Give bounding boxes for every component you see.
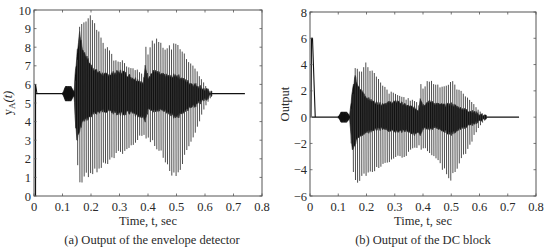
y-tick-label: 4 xyxy=(301,58,308,72)
y-tick-label: 9 xyxy=(25,22,31,36)
x-tick-label: 0.6 xyxy=(472,200,488,214)
y-tick-label: 0 xyxy=(25,190,31,204)
y-tick-label: 4 xyxy=(25,115,32,129)
x-tick-label: 0.8 xyxy=(528,200,544,214)
x-tick-label: 0.4 xyxy=(140,200,156,214)
y-tick-label: −2 xyxy=(294,137,307,151)
y-axis-label: Output xyxy=(278,86,292,121)
y-axis-label: yA(t) xyxy=(1,91,17,116)
figure: 00.10.20.30.40.50.60.70.8012345678910Tim… xyxy=(0,0,550,252)
x-tick-label: 0.7 xyxy=(226,200,242,214)
y-tick-label: 8 xyxy=(25,41,31,55)
x-tick-label: 0.4 xyxy=(415,200,431,214)
x-axis-label: Time, t, sec xyxy=(119,214,177,228)
y-tick-label: 6 xyxy=(25,78,31,92)
x-tick-label: 0.5 xyxy=(443,200,459,214)
x-tick-label: 0.8 xyxy=(254,200,270,214)
chart-envelope-detector: 00.10.20.30.40.50.60.70.8012345678910Tim… xyxy=(1,4,270,248)
x-tick-label: 0.1 xyxy=(55,200,71,214)
x-tick-label: 0.6 xyxy=(197,200,213,214)
y-tick-label: 10 xyxy=(19,4,32,18)
y-tick-label: 6 xyxy=(301,32,307,46)
x-axis-label: Time, t, sec xyxy=(394,214,452,228)
x-tick-label: 0.3 xyxy=(112,200,128,214)
caption-a: (a) Output of the envelope detector xyxy=(64,233,240,247)
y-tick-label: 3 xyxy=(25,134,31,148)
x-tick-label: 0.3 xyxy=(387,200,403,214)
x-tick-label: 0.5 xyxy=(169,200,185,214)
x-tick-label: 0.2 xyxy=(359,200,375,214)
y-tick-label: 2 xyxy=(301,84,307,98)
x-tick-label: 0 xyxy=(31,200,37,214)
y-tick-label: −6 xyxy=(294,190,307,204)
y-tick-label: 8 xyxy=(301,6,307,20)
y-tick-label: 2 xyxy=(25,152,31,166)
x-tick-label: 0.7 xyxy=(500,200,516,214)
waveform xyxy=(311,38,519,182)
y-tick-label: 1 xyxy=(25,171,31,185)
caption-b: (b) Output of the DC block xyxy=(355,233,491,247)
x-tick-label: 0.2 xyxy=(83,200,99,214)
x-tick-label: 0.1 xyxy=(330,200,346,214)
y-tick-label: −4 xyxy=(294,163,308,177)
y-tick-label: 0 xyxy=(301,111,307,125)
y-tick-label: 7 xyxy=(25,59,31,73)
x-tick-label: 0 xyxy=(307,200,313,214)
chart-dc-block: 00.10.20.30.40.50.60.70.8−6−4−202468Time… xyxy=(278,6,544,248)
waveform xyxy=(36,15,245,196)
y-tick-label: 5 xyxy=(25,97,31,111)
